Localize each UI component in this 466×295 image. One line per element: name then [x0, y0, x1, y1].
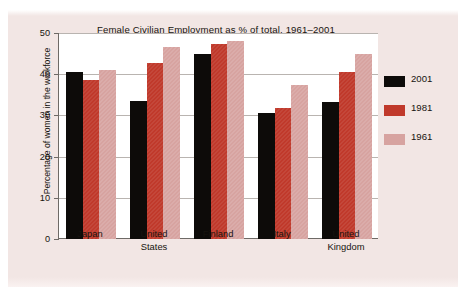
plot-area: 01020304050 [58, 33, 378, 239]
legend-label: 1981 [411, 102, 432, 113]
bar-group [130, 33, 180, 239]
bar[interactable] [99, 70, 116, 239]
x-tick-label: Japan [58, 228, 122, 241]
x-tick-label-line: Finland [186, 228, 250, 241]
y-tick-label: 20 [28, 152, 50, 162]
bar[interactable] [130, 101, 147, 239]
y-axis-title: Percentage of women in the workforce [42, 36, 52, 206]
x-tick-label: UnitedKingdom [314, 228, 378, 253]
x-tick-label-line: States [122, 241, 186, 254]
bar[interactable] [66, 72, 83, 239]
scanned-page: Female Civilian Employment as % of total… [0, 0, 466, 295]
legend-swatch [384, 76, 405, 87]
x-tick-label-line: Japan [58, 228, 122, 241]
bar[interactable] [83, 80, 100, 239]
bar[interactable] [163, 47, 180, 239]
bar[interactable] [211, 44, 228, 239]
bar[interactable] [258, 113, 275, 239]
x-tick-label-line: Italy [250, 228, 314, 241]
legend-item-1961[interactable]: 1961 [384, 131, 450, 160]
chart-legend: 200119811961 [384, 73, 450, 160]
bar-group [322, 33, 372, 239]
x-tick-label-line: United [314, 228, 378, 241]
y-tick-mark [54, 33, 59, 34]
legend-label: 2001 [411, 73, 432, 84]
bar[interactable] [291, 85, 308, 240]
legend-swatch [384, 134, 405, 145]
legend-swatch [384, 105, 405, 116]
bar-group [258, 33, 308, 239]
bar[interactable] [194, 54, 211, 239]
bar[interactable] [339, 72, 356, 239]
x-tick-label: UnitedStates [122, 228, 186, 253]
y-tick-label: 40 [28, 69, 50, 79]
y-tick-label: 10 [28, 193, 50, 203]
legend-item-2001[interactable]: 2001 [384, 73, 450, 102]
x-tick-label-line: Kingdom [314, 241, 378, 254]
bar-group [194, 33, 244, 239]
x-tick-label: Finland [186, 228, 250, 241]
y-tick-label: 50 [28, 28, 50, 38]
y-tick-mark [54, 198, 59, 199]
y-tick-mark [54, 115, 59, 116]
y-tick-label: 0 [28, 234, 50, 244]
y-tick-label: 30 [28, 110, 50, 120]
legend-item-1981[interactable]: 1981 [384, 102, 450, 131]
bar[interactable] [322, 102, 339, 239]
bar-chart: Female Civilian Employment as % of total… [16, 16, 450, 280]
y-tick-mark [54, 74, 59, 75]
x-tick-label: Italy [250, 228, 314, 241]
bar[interactable] [227, 41, 244, 239]
x-tick-label-line: United [122, 228, 186, 241]
bar[interactable] [355, 54, 372, 239]
bar-group [66, 33, 116, 239]
legend-label: 1961 [411, 131, 432, 142]
y-tick-mark [54, 157, 59, 158]
bar[interactable] [275, 108, 292, 239]
bar[interactable] [147, 63, 164, 239]
